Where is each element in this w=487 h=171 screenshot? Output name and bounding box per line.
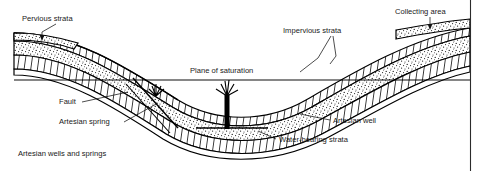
figure-caption: Artesian wells and springs xyxy=(18,149,106,158)
label-artesian-spring: Artesian spring xyxy=(59,117,110,126)
label-collecting-area: Collecting area xyxy=(395,7,446,16)
label-water-bearing-strata: Water-bearing strata xyxy=(279,135,349,144)
label-artesian-well: Artesian well xyxy=(333,116,376,125)
strata-stack xyxy=(14,19,470,159)
label-plane-of-saturation: Plane of saturation xyxy=(190,66,253,75)
label-impervious-strata: Impervious strata xyxy=(283,26,342,35)
artesian-aquifer-cross-section: Pervious strata Impervious strata Collec… xyxy=(0,0,487,171)
label-fault: Fault xyxy=(59,97,77,106)
figure-canvas: Pervious strata Impervious strata Collec… xyxy=(0,0,487,171)
well-casing-pipe xyxy=(225,95,230,129)
leader-impervious-strata-b xyxy=(330,36,336,64)
well-fountain-spray xyxy=(216,80,238,96)
label-pervious-strata: Pervious strata xyxy=(22,14,73,23)
leader-impervious-strata-a xyxy=(300,36,331,72)
